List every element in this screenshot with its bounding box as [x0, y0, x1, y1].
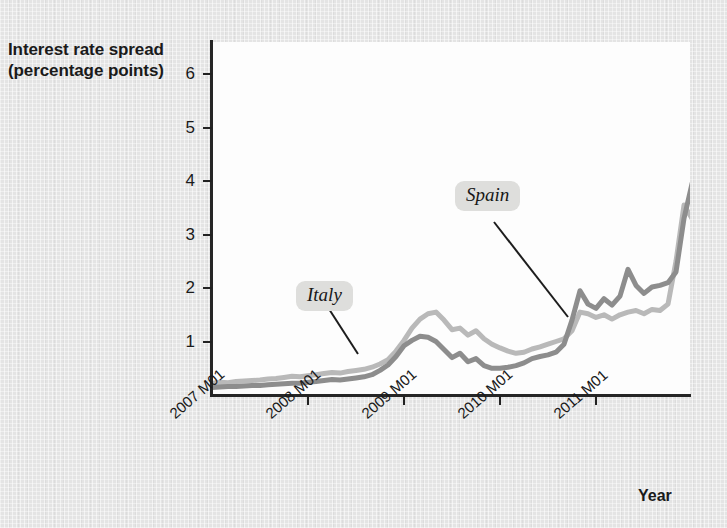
y-tick-label-4: 4 — [155, 172, 195, 189]
leader-line-spain — [494, 222, 568, 317]
y-axis-line — [210, 40, 213, 397]
plot-area: 123456 2007 M012008 M012009 M012010 M012… — [212, 42, 690, 395]
y-tick-5 — [203, 127, 212, 129]
y-tick-label-1: 1 — [155, 333, 195, 350]
y-tick-4 — [203, 180, 212, 182]
series-label-spain: Spain — [455, 181, 520, 211]
y-tick-1 — [203, 341, 212, 343]
y-tick-label-2: 2 — [155, 279, 195, 296]
y-tick-label-5: 5 — [155, 119, 195, 136]
y-axis-title-line-1: Interest rate spread — [8, 40, 164, 59]
line-series-spain — [212, 160, 690, 388]
x-tick-3 — [499, 395, 501, 405]
x-tick-1 — [307, 395, 309, 405]
line-series-italy — [212, 117, 690, 383]
x-axis-title: Year — [638, 487, 672, 505]
y-tick-6 — [203, 73, 212, 75]
y-tick-3 — [203, 234, 212, 236]
y-tick-label-6: 6 — [155, 65, 195, 82]
x-tick-4 — [595, 395, 597, 405]
chart-figure: Interest rate spread (percentage points)… — [0, 0, 727, 528]
x-tick-2 — [403, 395, 405, 405]
series-lines-svg — [212, 42, 690, 395]
series-label-italy: Italy — [296, 281, 353, 311]
y-tick-2 — [203, 287, 212, 289]
y-tick-label-3: 3 — [155, 226, 195, 243]
